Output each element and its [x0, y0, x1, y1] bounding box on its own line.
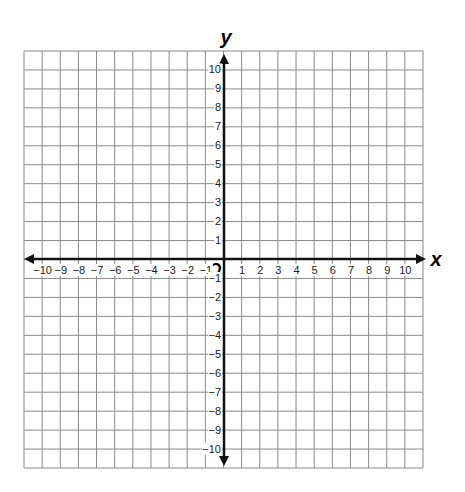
y-tick-label: 8	[215, 101, 221, 113]
y-tick-label: −7	[208, 386, 221, 398]
x-tick-label: −8	[73, 264, 86, 276]
y-tick-label: −5	[208, 348, 221, 360]
y-tick-label: 9	[215, 82, 221, 94]
x-tick-label: −5	[127, 264, 140, 276]
x-tick-label: −6	[109, 264, 122, 276]
x-tick-label: 6	[330, 264, 336, 276]
y-tick-label: −9	[208, 424, 221, 436]
y-tick-label: −4	[208, 329, 221, 341]
coordinate-grid: y x O −10−9−8−7−6−5−4−3−2−11234567891010…	[0, 0, 465, 492]
x-tick-label: 2	[257, 264, 263, 276]
y-tick-label: 3	[215, 196, 221, 208]
y-tick-label: 2	[215, 215, 221, 227]
x-tick-label: −9	[54, 264, 67, 276]
y-tick-label: 6	[215, 139, 221, 151]
y-tick-label: 10	[209, 63, 221, 75]
x-tick-label: −4	[145, 264, 158, 276]
y-tick-label: −8	[208, 405, 221, 417]
axes: y x O	[24, 26, 442, 466]
x-tick-label: 7	[348, 264, 354, 276]
y-axis-label: y	[219, 26, 232, 48]
y-tick-label: 4	[215, 177, 221, 189]
y-tick-label: 7	[215, 120, 221, 132]
x-tick-label: 4	[293, 264, 299, 276]
y-tick-label: −6	[208, 367, 221, 379]
x-axis-right-arrow-icon	[416, 254, 426, 264]
x-tick-label: 5	[312, 264, 318, 276]
x-tick-label: 3	[275, 264, 281, 276]
y-axis-down-arrow-icon	[219, 456, 229, 466]
x-tick-label: 1	[239, 264, 245, 276]
y-tick-label: 1	[215, 234, 221, 246]
x-axis-label: x	[429, 248, 442, 270]
x-tick-label: 9	[384, 264, 390, 276]
x-tick-label: −7	[91, 264, 104, 276]
x-tick-label: −10	[33, 264, 52, 276]
y-tick-label: −10	[202, 443, 221, 455]
y-tick-label: 5	[215, 158, 221, 170]
x-tick-label: 8	[366, 264, 372, 276]
coordinate-plane: y x O −10−9−8−7−6−5−4−3−2−11234567891010…	[0, 0, 465, 492]
x-tick-label: 10	[399, 264, 411, 276]
y-tick-label: −1	[208, 272, 221, 284]
x-tick-label: −2	[181, 264, 194, 276]
x-tick-label: −3	[163, 264, 176, 276]
y-tick-label: −3	[208, 310, 221, 322]
x-axis-left-arrow-icon	[24, 254, 34, 264]
y-tick-label: −2	[208, 291, 221, 303]
